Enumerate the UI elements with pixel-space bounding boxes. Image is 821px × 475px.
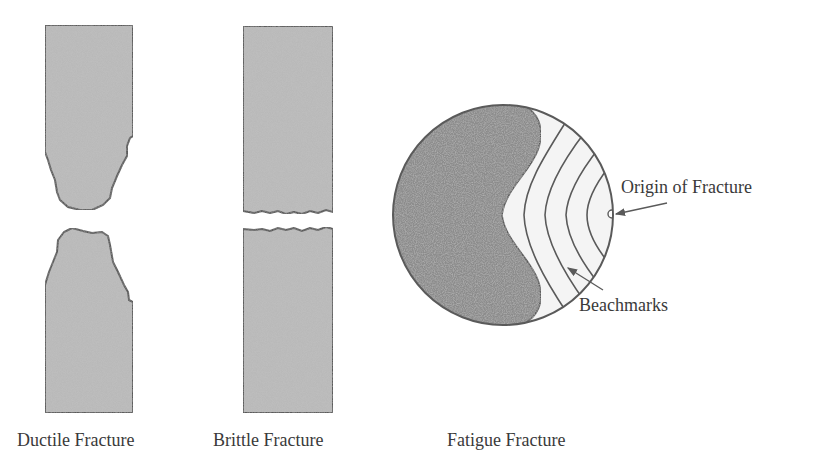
ductile-lower-half bbox=[45, 228, 133, 413]
fatigue-fracture-caption: Fatigue Fracture bbox=[447, 430, 565, 451]
ductile-specimen bbox=[45, 25, 133, 413]
brittle-upper-half bbox=[243, 26, 333, 214]
origin-arrow bbox=[616, 203, 667, 214]
fracture-types-diagram bbox=[0, 0, 821, 475]
brittle-specimen bbox=[243, 26, 333, 413]
brittle-lower-half bbox=[243, 227, 333, 413]
ductile-fracture-caption: Ductile Fracture bbox=[17, 430, 134, 451]
beachmarks-label: Beachmarks bbox=[579, 295, 668, 316]
ductile-upper-half bbox=[45, 25, 133, 210]
brittle-fracture-caption: Brittle Fracture bbox=[213, 430, 323, 451]
origin-notch bbox=[608, 210, 612, 218]
origin-of-fracture-label: Origin of Fracture bbox=[621, 177, 752, 198]
